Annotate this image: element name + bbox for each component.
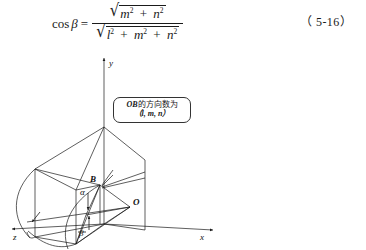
geometry-diagram: y x z B O α β [0, 52, 366, 250]
prism-edge [35, 127, 104, 169]
axis-x [104, 224, 213, 230]
fraction-denominator: √ l2 + m2 + n2 [92, 24, 183, 43]
exponent-2: 2 [110, 27, 114, 36]
axis-label-y: y [108, 58, 113, 68]
beta-symbol: β [71, 16, 77, 32]
point-label-O: O [133, 197, 140, 207]
prism-edge [104, 127, 145, 160]
angle-label-beta: β [78, 228, 84, 238]
plus-sign: + [120, 27, 127, 42]
callout-line-2: （l, m, n） [116, 109, 188, 118]
segment-OB [100, 185, 130, 207]
prism-edge [35, 169, 76, 190]
arc-left-bottom [27, 232, 35, 238]
exponent-2: 2 [160, 6, 164, 15]
cos-operator: cos [52, 16, 69, 32]
plus-sign: + [140, 6, 147, 21]
term-m: m [134, 27, 143, 42]
callout-vector-name: OB [126, 100, 137, 109]
axis-label-z: z [12, 232, 17, 242]
sqrt-numerator: √ m2 + n2 [110, 4, 166, 22]
radical-sign-icon: √ [110, 2, 120, 23]
exponent-2: 2 [173, 27, 177, 36]
exponent-2: 2 [130, 6, 134, 15]
textbook-page-fragment: cos β = √ m2 + n2 √ l2 [0, 0, 366, 250]
equation-number: （ 5-16） [300, 12, 352, 30]
sqrt-denominator: √ l2 + m2 + n2 [96, 25, 179, 43]
fraction: √ m2 + n2 √ l2 + m2 + [92, 4, 183, 43]
plus-sign: + [153, 27, 160, 42]
radical-sign-icon: √ [96, 23, 106, 44]
segment-O-z [27, 207, 130, 222]
equals-sign: = [81, 16, 88, 32]
callout-box: OB的方向数为 （l, m, n） [113, 97, 191, 123]
fraction-numerator: √ m2 + n2 [106, 4, 170, 23]
denominator-radicand: l2 + m2 + n2 [106, 26, 179, 43]
term-m: m [120, 6, 129, 21]
point-label-B: B [89, 174, 96, 184]
callout-text-rest: 的方向数为 [138, 100, 178, 109]
equation-cos-beta: cos β = √ m2 + n2 √ l2 [52, 4, 184, 43]
exponent-2: 2 [143, 27, 147, 36]
axis-label-x: x [199, 232, 204, 242]
numerator-radicand: m2 + n2 [119, 5, 165, 22]
angle-label-alpha: α [80, 187, 85, 197]
